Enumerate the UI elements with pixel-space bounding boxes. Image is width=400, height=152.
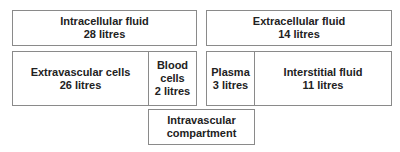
interstitial-fluid-box: Interstitial fluid 11 litres bbox=[254, 51, 392, 106]
intravascular-label-2: compartment bbox=[167, 127, 237, 140]
extracellular-volume: 14 litres bbox=[278, 28, 320, 41]
extracellular-fluid-box: Extracellular fluid 14 litres bbox=[206, 10, 392, 46]
extravascular-cells-label: Extravascular cells bbox=[31, 66, 131, 79]
blood-cells-box: Blood cells 2 litres bbox=[148, 51, 197, 106]
extravascular-cells-volume: 26 litres bbox=[60, 79, 102, 92]
plasma-volume: 3 litres bbox=[213, 79, 248, 92]
intravascular-compartment-box: Intravascular compartment bbox=[148, 109, 255, 145]
plasma-label: Plasma bbox=[211, 66, 250, 79]
interstitial-label: Interstitial fluid bbox=[284, 66, 363, 79]
intracellular-volume: 28 litres bbox=[84, 28, 126, 41]
intravascular-label-1: Intravascular bbox=[167, 114, 235, 127]
extravascular-cells-box: Extravascular cells 26 litres bbox=[12, 51, 149, 106]
blood-cells-label-1: Blood bbox=[157, 59, 188, 72]
intracellular-fluid-box: Intracellular fluid 28 litres bbox=[12, 10, 197, 46]
intracellular-label: Intracellular fluid bbox=[60, 15, 149, 28]
blood-cells-label-2: cells bbox=[160, 72, 184, 85]
plasma-box: Plasma 3 litres bbox=[206, 51, 255, 106]
blood-cells-volume: 2 litres bbox=[155, 85, 190, 98]
extracellular-label: Extracellular fluid bbox=[253, 15, 345, 28]
interstitial-volume: 11 litres bbox=[303, 79, 344, 92]
